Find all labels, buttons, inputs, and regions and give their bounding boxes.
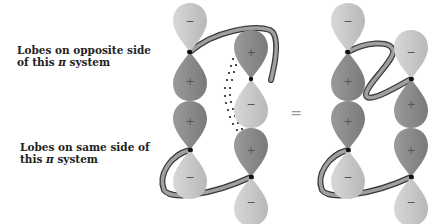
p-orbital-right-1: − + (331, 3, 365, 101)
node-dot (188, 50, 192, 54)
node-dot (409, 77, 413, 81)
equals-sign: = (290, 105, 302, 121)
minus-sign: − (246, 98, 255, 111)
left-diagram: − + + − + − + − (162, 3, 276, 224)
node-dot (249, 175, 253, 179)
p-orbital-right-2: − + (394, 30, 428, 128)
node-dot (346, 50, 350, 54)
plus-sign: + (406, 98, 415, 111)
p-orbital-right-4: + − (394, 128, 428, 224)
node-dot (409, 175, 413, 179)
plus-sign: + (246, 46, 255, 59)
p-orbital-left-2: + − (234, 30, 268, 128)
plus-sign: + (185, 75, 194, 88)
orbital-diagrams: − + + − + − + − = (0, 0, 439, 224)
p-orbital-left-4: + − (234, 128, 268, 224)
p-orbital-left-3: + − (173, 101, 207, 199)
node-dot (249, 77, 253, 81)
minus-sign: − (185, 15, 194, 28)
minus-sign: − (343, 171, 352, 184)
node-dot (346, 148, 350, 152)
plus-sign: + (406, 144, 415, 157)
minus-sign: − (185, 171, 194, 184)
minus-sign: − (406, 46, 415, 59)
plus-sign: + (343, 75, 352, 88)
p-orbital-left-1: − + (173, 3, 207, 101)
minus-sign: − (406, 196, 415, 209)
plus-sign: + (185, 115, 194, 128)
plus-sign: + (343, 115, 352, 128)
node-dot (188, 148, 192, 152)
plus-sign: + (246, 144, 255, 157)
minus-sign: − (246, 196, 255, 209)
p-orbital-right-3: + − (331, 101, 365, 199)
right-diagram: − + − + + − + − (320, 3, 428, 224)
minus-sign: − (343, 15, 352, 28)
